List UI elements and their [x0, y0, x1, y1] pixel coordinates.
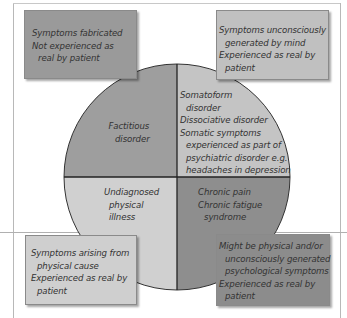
quadrant-label-somatoform: Somatoform disorder Dissociative disorde…: [180, 89, 291, 177]
callout-box-factitious: Symptoms fabricated Not experienced as r…: [24, 10, 137, 79]
text-line: generated by mind: [219, 37, 324, 50]
quadrant-label-factitious: Factitious disorder: [108, 120, 150, 145]
text-line: physical cause: [31, 260, 132, 273]
callout-box-chronic: Might be physical and/or unconsciously g…: [216, 234, 330, 306]
text-line: Undiagnosed: [104, 186, 159, 199]
text-line: real by patient: [32, 52, 132, 65]
quadrant-label-chronic: Chronic pain Chronic fatigue syndrome: [198, 186, 262, 224]
text-line: patient: [219, 290, 325, 303]
text-line: psychological symptoms: [219, 265, 325, 278]
text-line: Experienced as real by: [219, 278, 325, 291]
text-line: Experienced as real by: [219, 49, 324, 62]
text-line: physical: [104, 199, 159, 212]
text-line: disorder: [180, 102, 291, 115]
text-line: illness: [104, 211, 159, 224]
quadrant-label-undiagnosed: Undiagnosed physical illness: [104, 186, 159, 224]
text-line: Symptoms fabricated: [32, 27, 132, 40]
text-line: Somatoform: [180, 89, 291, 102]
text-line: disorder: [108, 133, 150, 146]
text-line: unconsciously generated: [219, 253, 325, 266]
callout-box-somatoform: Symptoms unconsciously generated by mind…: [216, 10, 329, 80]
text-line: Experienced as real by: [31, 272, 132, 285]
text-line: patient: [219, 62, 324, 75]
text-line: Dissociative disorder: [180, 114, 291, 127]
text-line: Might be physical and/or: [219, 240, 325, 253]
text-line: psychiatric disorder e.g.: [180, 152, 291, 165]
text-line: Somatic symptoms: [180, 127, 291, 140]
text-line: Not experienced as: [32, 40, 132, 53]
text-line: Symptoms arising from: [31, 247, 132, 260]
text-line: Chronic pain: [198, 186, 262, 199]
callout-box-undiagnosed: Symptoms arising from physical cause Exp…: [25, 235, 137, 305]
text-line: Chronic fatigue: [198, 199, 262, 212]
text-line: headaches in depression: [180, 164, 291, 177]
text-line: experienced as part of: [180, 139, 291, 152]
text-line: Symptoms unconsciously: [219, 24, 324, 37]
text-line: Factitious: [108, 120, 150, 133]
text-line: syndrome: [198, 211, 262, 224]
text-line: patient: [31, 285, 132, 298]
